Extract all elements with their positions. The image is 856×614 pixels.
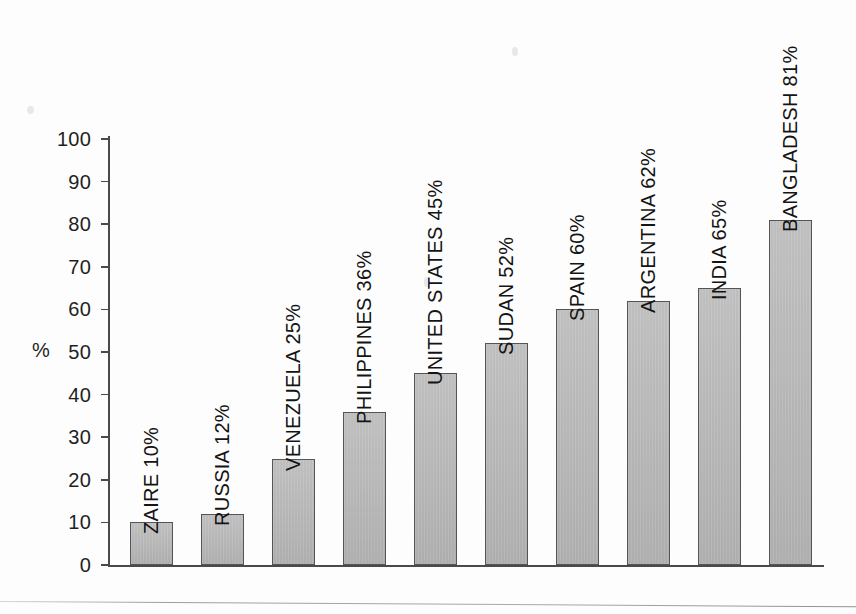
y-tick-label: 40 <box>45 385 91 405</box>
y-tick-mark <box>101 394 108 396</box>
bar-label: BANGLADESH 81% <box>780 45 800 232</box>
y-tick-label: 90 <box>45 172 91 192</box>
scan-speck <box>27 106 34 114</box>
bar-label: RUSSIA 12% <box>212 404 232 526</box>
bar <box>627 301 670 565</box>
bar <box>272 459 315 566</box>
y-tick-mark <box>101 564 108 566</box>
bar-label: ZAIRE 10% <box>141 427 161 534</box>
y-tick-label: 30 <box>45 427 91 447</box>
page-edge-line <box>0 601 856 607</box>
bar-label: SPAIN 60% <box>567 215 587 322</box>
bar <box>414 373 457 565</box>
y-tick-label: 0 <box>45 555 91 575</box>
y-tick-mark <box>101 181 108 183</box>
bar-label: VENEZUELA 25% <box>283 303 303 470</box>
scan-speck <box>512 47 518 56</box>
chart-page: % 0102030405060708090100 ZAIRE 10%RUSSIA… <box>0 0 856 614</box>
y-axis-line <box>108 136 110 566</box>
x-axis-baseline <box>108 565 824 567</box>
bar-label: INDIA 65% <box>709 200 729 301</box>
y-tick-label: 100 <box>45 129 91 149</box>
y-tick-mark <box>101 223 108 225</box>
y-tick-label: 80 <box>45 214 91 234</box>
y-tick-mark <box>101 309 108 311</box>
scan-speck <box>424 277 428 287</box>
y-tick-mark <box>101 266 108 268</box>
bar <box>485 343 528 565</box>
bar-chart: % 0102030405060708090100 ZAIRE 10%RUSSIA… <box>0 0 856 614</box>
bar <box>769 220 812 565</box>
bar <box>556 309 599 565</box>
y-tick-label: 60 <box>45 299 91 319</box>
y-tick-mark <box>101 351 108 353</box>
bar-label: PHILIPPINES 36% <box>354 250 374 423</box>
y-tick-label: 20 <box>45 470 91 490</box>
bar <box>698 288 741 565</box>
y-tick-mark <box>101 138 108 140</box>
bar-label: SUDAN 52% <box>496 237 516 355</box>
y-tick-label: 10 <box>45 512 91 532</box>
y-tick-mark <box>101 522 108 524</box>
bar-label: ARGENTINA 62% <box>638 148 658 313</box>
bar <box>343 412 386 565</box>
y-tick-mark <box>101 479 108 481</box>
y-tick-label: 70 <box>45 257 91 277</box>
y-tick-label: 50 <box>45 342 91 362</box>
y-tick-mark <box>101 436 108 438</box>
